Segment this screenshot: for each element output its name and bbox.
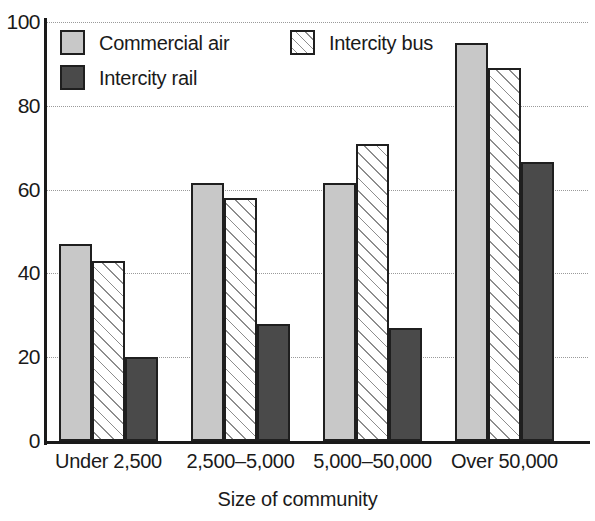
legend-label: Intercity rail: [99, 67, 197, 89]
y-tick-label: 80: [0, 95, 40, 116]
bar-chart: 100 80 60 40 20 0 Commercial air Interci…: [0, 0, 595, 521]
legend-label: Intercity bus: [329, 32, 433, 54]
y-tick-label: 100: [0, 11, 40, 32]
y-tick-label: 60: [0, 179, 40, 200]
legend: Commercial air Intercity bus Intercity r…: [60, 30, 490, 92]
bar: [488, 68, 521, 441]
bar: [224, 198, 257, 441]
x-category-label: 2,500–5,000: [173, 448, 308, 474]
bar: [323, 183, 356, 441]
x-axis-title: Size of community: [0, 487, 595, 511]
legend-item-intercity-rail: Intercity rail: [60, 65, 197, 90]
x-axis-line: [44, 441, 590, 444]
bar: [191, 183, 224, 441]
x-category-label: 5,000–50,000: [305, 448, 440, 474]
y-tick-label: 0: [0, 430, 40, 451]
legend-item-intercity-bus: Intercity bus: [290, 30, 433, 55]
bus-swatch-icon: [290, 30, 315, 55]
bar: [356, 144, 389, 441]
y-axis-tick-labels: 100 80 60 40 20 0: [0, 0, 40, 521]
bar: [257, 324, 290, 441]
bar: [455, 43, 488, 441]
x-axis-category-labels: Under 2,5002,500–5,0005,000–50,000Over 5…: [47, 448, 588, 480]
rail-swatch-icon: [60, 65, 85, 90]
x-category-label: Under 2,500: [41, 448, 176, 474]
legend-item-commercial-air: Commercial air: [60, 30, 229, 55]
x-category-label: Over 50,000: [437, 448, 572, 474]
y-tick-label: 40: [0, 262, 40, 283]
bar: [92, 261, 125, 441]
air-swatch-icon: [60, 30, 85, 55]
bar: [59, 244, 92, 441]
bar: [521, 162, 554, 441]
bar: [125, 357, 158, 441]
y-tick-label: 20: [0, 346, 40, 367]
bar: [389, 328, 422, 441]
legend-label: Commercial air: [99, 32, 229, 54]
